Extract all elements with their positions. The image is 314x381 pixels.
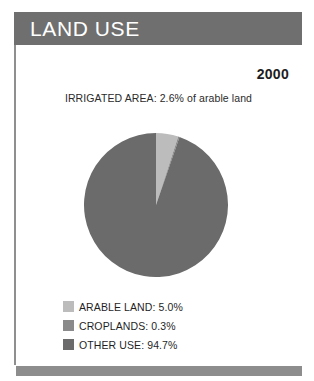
irrigated-area-note: IRRIGATED AREA: 2.6% of arable land xyxy=(16,92,301,104)
legend-swatch-croplands xyxy=(63,320,74,331)
legend-item-other-use: OTHER USE: 94.7% xyxy=(63,335,183,354)
legend-label-croplands: CROPLANDS: 0.3% xyxy=(79,320,176,332)
legend-swatch-other-use xyxy=(63,339,74,350)
legend-label-other-use: OTHER USE: 94.7% xyxy=(79,339,177,351)
pie-svg xyxy=(84,133,228,277)
card-footer-bar xyxy=(16,366,302,376)
legend-item-croplands: CROPLANDS: 0.3% xyxy=(63,316,183,335)
land-use-card: LAND USE 2000 IRRIGATED AREA: 2.6% of ar… xyxy=(0,0,314,381)
card-header-bar: LAND USE xyxy=(14,12,302,45)
legend-swatch-arable-land xyxy=(63,301,74,312)
chart-legend: ARABLE LAND: 5.0% CROPLANDS: 0.3% OTHER … xyxy=(63,297,183,354)
page-title: LAND USE xyxy=(30,17,140,41)
year-label: 2000 xyxy=(257,66,289,82)
legend-label-arable-land: ARABLE LAND: 5.0% xyxy=(79,301,183,313)
land-use-pie-chart xyxy=(84,133,228,277)
legend-item-arable-land: ARABLE LAND: 5.0% xyxy=(63,297,183,316)
